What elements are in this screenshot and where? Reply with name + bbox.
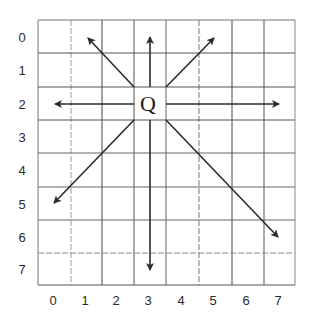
col-label-6: 6: [238, 294, 254, 308]
row-label-6: 6: [14, 231, 30, 245]
center-label-q: Q: [140, 91, 156, 117]
row-label-4: 4: [14, 164, 30, 178]
row-label-3: 3: [14, 131, 30, 145]
row-label-5: 5: [14, 198, 30, 212]
row-label-1: 1: [14, 64, 30, 78]
arrow-south-west: [54, 120, 134, 203]
col-label-5: 5: [205, 294, 221, 308]
col-label-7: 7: [270, 294, 286, 308]
arrow-north-west: [88, 38, 134, 87]
col-label-3: 3: [140, 294, 156, 308]
arrow-north-east: [166, 38, 214, 87]
row-label-0: 0: [14, 31, 30, 45]
col-label-1: 1: [77, 294, 93, 308]
row-label-7: 7: [14, 263, 30, 277]
arrow-south-east: [166, 120, 278, 237]
col-label-4: 4: [173, 294, 189, 308]
grid-lines: [38, 20, 295, 285]
col-label-2: 2: [108, 294, 124, 308]
grid-diagram: [0, 0, 313, 328]
row-label-2: 2: [14, 98, 30, 112]
col-label-0: 0: [45, 294, 61, 308]
